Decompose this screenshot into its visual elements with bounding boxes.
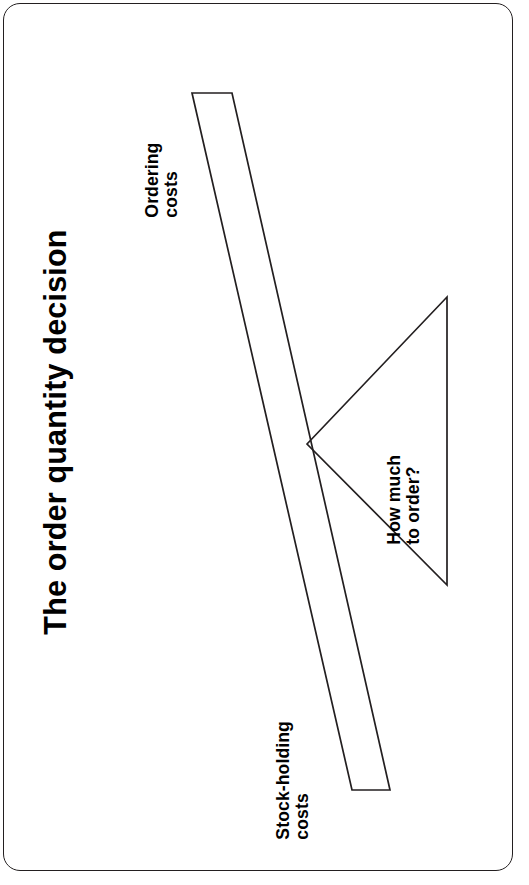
label-how-much-to-order-line1: How much	[385, 375, 404, 545]
label-stock-holding-costs-line1: Stock-holding	[274, 650, 293, 840]
label-how-much-to-order: How much to order?	[385, 375, 422, 545]
diagram-figure	[0, 0, 529, 885]
label-stock-holding-costs: Stock-holding costs	[274, 650, 311, 840]
slide-canvas: The order quantity decision Ordering cos…	[0, 0, 529, 885]
label-ordering-costs-line1: Ordering	[143, 68, 162, 218]
page-title: The order quantity decision	[39, 172, 77, 692]
label-ordering-costs: Ordering costs	[143, 68, 180, 218]
label-how-much-to-order-line2: to order?	[404, 375, 423, 545]
label-stock-holding-costs-line2: costs	[293, 650, 312, 840]
label-ordering-costs-line2: costs	[162, 68, 181, 218]
